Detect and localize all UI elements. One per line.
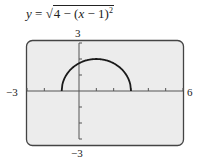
calculator-screen — [27, 41, 184, 146]
y-max-label: 3 — [75, 27, 81, 39]
x-min-label: −3 — [6, 86, 18, 98]
calculator-screen-plot — [0, 0, 200, 161]
x-max-label: 6 — [187, 86, 193, 98]
y-min-label: −3 — [71, 147, 83, 159]
